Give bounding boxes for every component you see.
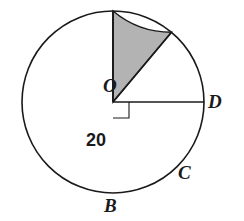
point-label-b: B (104, 196, 117, 215)
point-label-d: D (208, 92, 222, 111)
right-angle-marker-icon (113, 102, 129, 118)
radius-measure-label: 20 (86, 131, 106, 149)
geometry-figure: O D C B 20 (0, 0, 244, 221)
shaded-sector-boc (113, 11, 171, 102)
point-label-c: C (178, 163, 191, 182)
point-label-o: O (103, 76, 117, 95)
